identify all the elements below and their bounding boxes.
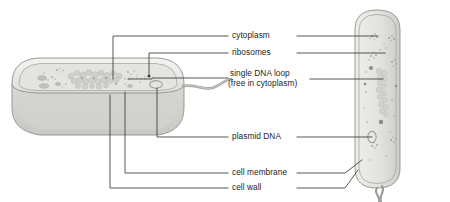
- left-flagellum: [183, 79, 231, 88]
- bacteria-diagram-svg: [0, 0, 450, 202]
- right-flagellum: [376, 188, 379, 202]
- leader-membrane-right: [297, 160, 362, 173]
- leader-ribosomes-dot: [148, 75, 151, 78]
- label-cell-membrane: cell membrane: [232, 168, 287, 178]
- label-cell-wall: cell wall: [232, 183, 262, 193]
- label-single-dna-loop-line2: (free in cytoplasm): [228, 79, 297, 88]
- label-cytoplasm: cytoplasm: [232, 31, 270, 41]
- left-plasmid-dna: [150, 81, 162, 88]
- label-plasmid-dna: plasmid DNA: [232, 132, 281, 142]
- right-flagellum-2: [380, 186, 383, 202]
- left-bacterium: [12, 58, 231, 135]
- label-single-dna-loop-line1: single DNA loop: [230, 69, 290, 78]
- label-ribosomes: ribosomes: [232, 48, 271, 58]
- right-bacterium: [355, 10, 400, 202]
- figure-canvas: cytoplasm ribosomes single DNA loop (fre…: [0, 0, 450, 202]
